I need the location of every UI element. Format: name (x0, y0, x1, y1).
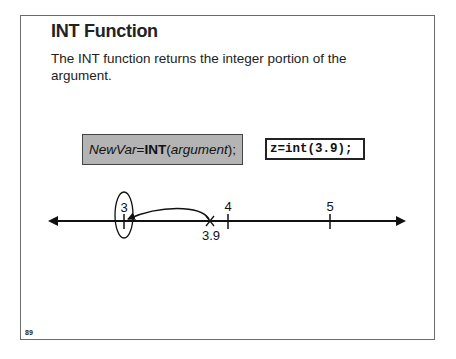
curved-arrow-icon (128, 209, 209, 220)
page-number: 89 (25, 329, 33, 336)
label-4: 4 (224, 199, 231, 214)
label-3-9: 3.9 (202, 228, 220, 243)
label-3: 3 (120, 200, 127, 215)
label-5: 5 (326, 199, 333, 214)
number-line-diagram: 3 4 5 3.9 (0, 0, 456, 359)
left-arrow-icon (48, 216, 58, 226)
right-arrow-icon (396, 216, 406, 226)
